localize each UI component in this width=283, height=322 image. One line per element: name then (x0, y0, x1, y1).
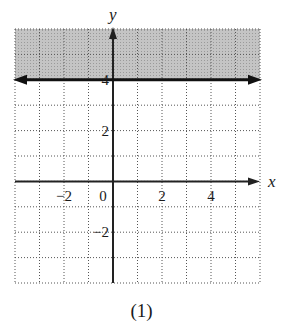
svg-text:4: 4 (207, 188, 215, 204)
svg-text:2: 2 (158, 188, 166, 204)
svg-text:−2: −2 (93, 224, 109, 240)
y-axis-label: y (107, 5, 117, 24)
svg-text:2: 2 (102, 123, 110, 139)
svg-text:0: 0 (99, 188, 107, 204)
svg-text:−2: −2 (56, 188, 72, 204)
x-axis-label: x (267, 172, 276, 191)
figure-caption: (1) (0, 300, 283, 322)
svg-text:4: 4 (102, 72, 110, 88)
